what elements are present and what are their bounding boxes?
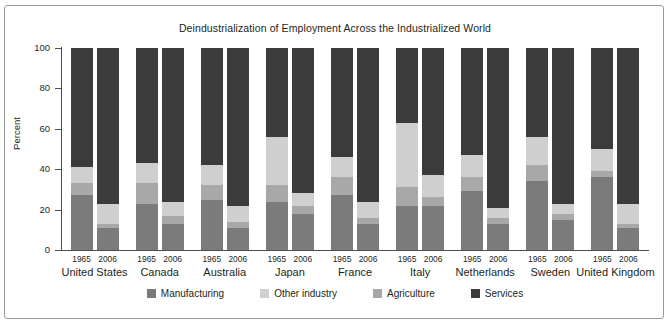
- bar-segment-other-industry: [526, 137, 548, 165]
- bar-segment-other-industry: [227, 206, 249, 222]
- chart-title: Deindustrialization of Employment Across…: [0, 22, 670, 34]
- legend-label: Other industry: [274, 288, 337, 299]
- bar-segment-services: [162, 48, 184, 202]
- bar-segment-services: [357, 48, 379, 202]
- bar-segment-manufacturing: [461, 191, 483, 250]
- bar-segment-manufacturing: [331, 195, 353, 250]
- x-axis-year-label: 2006: [481, 254, 515, 264]
- legend-label: Agriculture: [387, 288, 435, 299]
- stacked-bar: [292, 48, 314, 250]
- bar-segment-agriculture: [266, 185, 288, 201]
- bar-segment-other-industry: [396, 123, 418, 188]
- bar-segment-manufacturing: [552, 220, 574, 250]
- bar-segment-agriculture: [136, 183, 158, 203]
- bar-segment-services: [331, 48, 353, 157]
- y-axis-tick: [55, 88, 61, 89]
- stacked-bar: [266, 48, 288, 250]
- bar-segment-other-industry: [617, 204, 639, 224]
- x-axis-year-label: 2006: [416, 254, 450, 264]
- bar-segment-agriculture: [227, 222, 249, 228]
- stacked-bar: [552, 48, 574, 250]
- bar-segment-other-industry: [357, 202, 379, 218]
- bar-segment-agriculture: [526, 165, 548, 181]
- bar-segment-agriculture: [487, 218, 509, 224]
- bar-segment-agriculture: [422, 197, 444, 205]
- legend-label: Manufacturing: [161, 288, 224, 299]
- bar-segment-manufacturing: [162, 224, 184, 250]
- plot-area: [62, 48, 648, 250]
- bar-segment-manufacturing: [487, 224, 509, 250]
- bar-segment-agriculture: [396, 187, 418, 205]
- bar-segment-other-industry: [422, 175, 444, 197]
- bar-segment-services: [292, 48, 314, 193]
- bar-segment-agriculture: [162, 216, 184, 224]
- bar-segment-manufacturing: [266, 202, 288, 250]
- y-axis-tick-label: 0: [14, 245, 50, 255]
- y-axis-tick-label: 60: [14, 124, 50, 134]
- stacked-bar: [136, 48, 158, 250]
- bar-segment-agriculture: [292, 206, 314, 214]
- y-axis-tick-label: 20: [14, 205, 50, 215]
- bar-segment-other-industry: [162, 202, 184, 216]
- bar-segment-services: [71, 48, 93, 167]
- bar-segment-other-industry: [331, 157, 353, 177]
- bar-segment-manufacturing: [357, 224, 379, 250]
- bar-segment-other-industry: [71, 167, 93, 183]
- chart-figure: Deindustrialization of Employment Across…: [0, 0, 670, 324]
- stacked-bar: [591, 48, 613, 250]
- bar-segment-services: [487, 48, 509, 208]
- bar-segment-other-industry: [266, 137, 288, 185]
- bar-segment-services: [461, 48, 483, 155]
- bar-segment-manufacturing: [396, 206, 418, 250]
- bar-segment-other-industry: [487, 208, 509, 218]
- stacked-bar: [71, 48, 93, 250]
- bar-segment-other-industry: [292, 193, 314, 205]
- stacked-bar: [461, 48, 483, 250]
- bar-segment-other-industry: [591, 149, 613, 171]
- bar-segment-agriculture: [552, 214, 574, 220]
- x-axis-year-label: 2006: [351, 254, 385, 264]
- legend-item-other-industry: Other industry: [260, 288, 337, 299]
- x-axis-year-label: 2006: [611, 254, 645, 264]
- bar-segment-manufacturing: [136, 204, 158, 250]
- legend-swatch-manufacturing: [147, 289, 156, 298]
- stacked-bar: [201, 48, 223, 250]
- bar-segment-services: [591, 48, 613, 149]
- x-axis-line: [61, 250, 649, 251]
- bar-segment-services: [617, 48, 639, 204]
- bar-segment-services: [266, 48, 288, 137]
- legend-label: Services: [485, 288, 523, 299]
- bar-segment-manufacturing: [591, 177, 613, 250]
- bar-segment-agriculture: [201, 185, 223, 199]
- bar-segment-manufacturing: [227, 228, 249, 250]
- x-axis-year-label: 2006: [546, 254, 580, 264]
- x-axis-year-label: 2006: [286, 254, 320, 264]
- bar-segment-services: [136, 48, 158, 163]
- bar-segment-manufacturing: [292, 214, 314, 250]
- bar-segment-manufacturing: [97, 228, 119, 250]
- legend-item-manufacturing: Manufacturing: [147, 288, 224, 299]
- bar-segment-agriculture: [461, 177, 483, 191]
- y-axis-tick-label: 100: [14, 43, 50, 53]
- legend-swatch-other-industry: [260, 289, 269, 298]
- y-axis-tick: [55, 169, 61, 170]
- stacked-bar: [422, 48, 444, 250]
- bar-segment-manufacturing: [71, 195, 93, 250]
- stacked-bar: [487, 48, 509, 250]
- y-axis-tick-label: 80: [14, 83, 50, 93]
- stacked-bar: [331, 48, 353, 250]
- bar-segment-agriculture: [617, 224, 639, 228]
- x-axis-year-label: 2006: [221, 254, 255, 264]
- bar-segment-agriculture: [71, 183, 93, 195]
- bar-segment-agriculture: [331, 177, 353, 195]
- y-axis-tick: [55, 129, 61, 130]
- bar-segment-other-industry: [201, 165, 223, 185]
- stacked-bar: [97, 48, 119, 250]
- bar-segment-services: [201, 48, 223, 165]
- legend-item-agriculture: Agriculture: [373, 288, 435, 299]
- x-axis-year-label: 2006: [91, 254, 125, 264]
- stacked-bar: [526, 48, 548, 250]
- x-axis-year-label: 2006: [156, 254, 190, 264]
- y-axis-tick: [55, 250, 61, 251]
- bar-segment-manufacturing: [526, 181, 548, 250]
